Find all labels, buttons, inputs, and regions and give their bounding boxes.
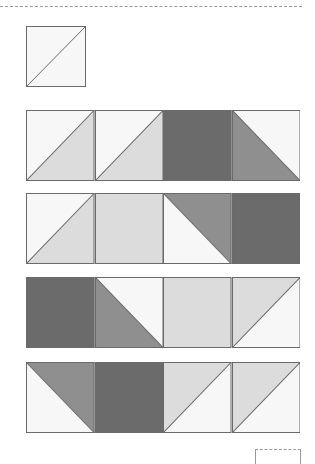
sample-block-graphic <box>26 26 86 87</box>
quilt-block <box>163 362 232 433</box>
quilt-block <box>95 193 164 264</box>
quilt-block <box>26 277 95 348</box>
quilt-block <box>26 110 95 181</box>
quilt-block <box>232 193 301 264</box>
quilt-block <box>95 110 164 181</box>
quilt-row-4 <box>26 362 300 433</box>
sample-half-square-block <box>26 26 86 87</box>
quilt-block <box>232 110 301 181</box>
quilt-block <box>26 362 95 433</box>
quilt-block <box>232 277 301 348</box>
quilt-row-1 <box>26 110 300 181</box>
quilt-block <box>163 277 232 348</box>
page-corner-marker <box>255 449 301 464</box>
quilt-block <box>232 362 301 433</box>
quilt-block <box>163 193 232 264</box>
quilt-block <box>95 362 164 433</box>
quilt-row-3 <box>26 277 300 348</box>
quilt-block <box>163 110 232 181</box>
quilt-block <box>26 193 95 264</box>
dotted-cut-line <box>0 6 302 7</box>
quilt-row-2 <box>26 193 300 264</box>
quilt-block <box>95 277 164 348</box>
